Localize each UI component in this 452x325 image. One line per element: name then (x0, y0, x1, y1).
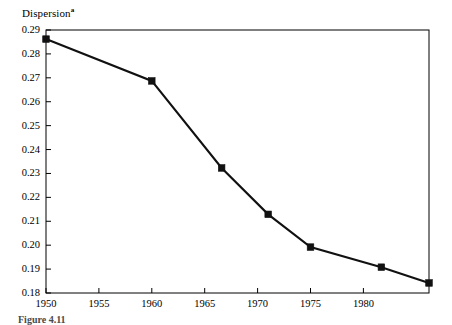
y-axis-tick-label: 0.25 (6, 120, 40, 131)
y-axis-tick-label: 0.22 (6, 191, 40, 202)
data-point-marker (265, 211, 272, 218)
data-point-marker (307, 244, 314, 251)
x-axis-tick-marks (46, 288, 363, 293)
x-axis-tick-label: 1970 (236, 298, 280, 309)
data-point-marker (43, 36, 50, 43)
x-axis-tick-label: 1980 (341, 298, 385, 309)
x-axis-tick-label: 1955 (77, 298, 121, 309)
data-point-marker (218, 165, 225, 172)
dispersion-series-markers (43, 36, 433, 286)
y-axis-tick-label: 0.29 (6, 24, 40, 35)
y-axis-tick-label: 0.18 (6, 287, 40, 298)
y-axis-tick-marks (46, 30, 51, 293)
dispersion-series-line (46, 39, 429, 283)
plot-frame (46, 30, 429, 293)
x-axis-tick-label: 1950 (24, 298, 68, 309)
x-axis-tick-label: 1965 (183, 298, 227, 309)
y-axis-tick-label: 0.27 (6, 72, 40, 83)
y-axis-tick-label: 0.19 (6, 263, 40, 274)
data-point-marker (149, 78, 156, 85)
data-point-marker (426, 280, 433, 287)
x-axis-tick-label: 1975 (289, 298, 333, 309)
figure-container: Dispersiona 0.180.190.200.210.220.230.24… (0, 0, 452, 325)
y-axis-tick-label: 0.23 (6, 167, 40, 178)
line-chart-plot (0, 0, 452, 325)
y-axis-tick-label: 0.24 (6, 144, 40, 155)
y-axis-tick-label: 0.20 (6, 239, 40, 250)
data-point-marker (378, 264, 385, 271)
x-axis-tick-label: 1960 (130, 298, 174, 309)
y-axis-tick-label: 0.28 (6, 48, 40, 59)
y-axis-tick-label: 0.26 (6, 96, 40, 107)
figure-caption: Figure 4.11 (18, 314, 66, 325)
y-axis-tick-label: 0.21 (6, 215, 40, 226)
